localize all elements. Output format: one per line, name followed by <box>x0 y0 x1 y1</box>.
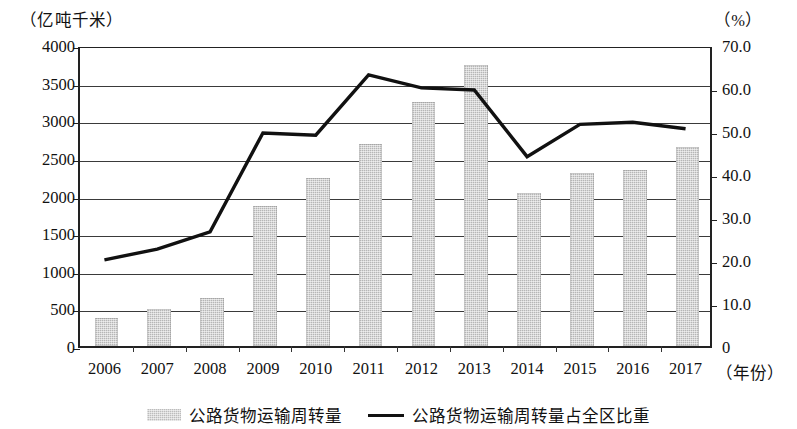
x-axis-label-2011: 2011 <box>352 359 384 379</box>
right-axis-tick-label: 10.0 <box>722 295 792 315</box>
x-axis-label-2008: 2008 <box>194 359 227 379</box>
bar-swatch-icon <box>147 409 181 421</box>
x-axis-label-2006: 2006 <box>88 359 121 379</box>
left-axis-unit-label: （亿吨千米） <box>20 7 124 31</box>
left-axis-tick-label: 3000 <box>11 112 75 132</box>
left-axis-tick-label: 2500 <box>11 150 75 170</box>
right-axis-tick-label: 0 <box>722 338 792 358</box>
left-axis-tick-label: 500 <box>11 300 75 320</box>
chart-legend: 公路货物运输周转量 公路货物运输周转量占全区比重 <box>0 403 797 427</box>
right-axis-tick-label: 50.0 <box>722 123 792 143</box>
left-axis-tick-label: 1000 <box>11 263 75 283</box>
right-axis-tick-label: 60.0 <box>722 80 792 100</box>
right-axis-tick-label: 40.0 <box>722 166 792 186</box>
x-axis-title: （年份） <box>716 360 784 384</box>
left-axis-tick-label: 1500 <box>11 225 75 245</box>
x-axis-label-2014: 2014 <box>511 359 544 379</box>
x-axis-label-2016: 2016 <box>616 359 649 379</box>
chart-container: （亿吨千米） （%） 20062007200820092010201120122… <box>0 0 797 429</box>
x-axis-labels: 2006200720082009201020112012201320142015… <box>0 359 797 385</box>
x-axis-label-2007: 2007 <box>141 359 174 379</box>
percentage-line <box>104 75 685 260</box>
x-axis-label-2015: 2015 <box>563 359 596 379</box>
left-axis-tick-label: 0 <box>11 338 75 358</box>
x-axis-label-2012: 2012 <box>405 359 438 379</box>
line-series-overlay <box>78 47 712 348</box>
legend-item-line-series: 公路货物运输周转量占全区比重 <box>368 403 650 427</box>
right-axis-unit-label: （%） <box>714 7 763 31</box>
right-axis-tick-label: 20.0 <box>722 252 792 272</box>
x-axis-label-2009: 2009 <box>246 359 279 379</box>
left-axis-tick-label: 4000 <box>11 37 75 57</box>
line-swatch-icon <box>368 414 404 417</box>
x-axis-label-2017: 2017 <box>669 359 702 379</box>
legend-item-bar-series: 公路货物运输周转量 <box>147 403 342 427</box>
legend-label-line-series: 公路货物运输周转量占全区比重 <box>412 403 650 427</box>
right-axis-tick-label: 30.0 <box>722 209 792 229</box>
legend-label-bar-series: 公路货物运输周转量 <box>189 403 342 427</box>
right-axis-tick-label: 70.0 <box>722 37 792 57</box>
left-axis-tick-label: 2000 <box>11 188 75 208</box>
x-axis-label-2013: 2013 <box>458 359 491 379</box>
x-axis-label-2010: 2010 <box>299 359 332 379</box>
left-axis-tick-label: 3500 <box>11 75 75 95</box>
